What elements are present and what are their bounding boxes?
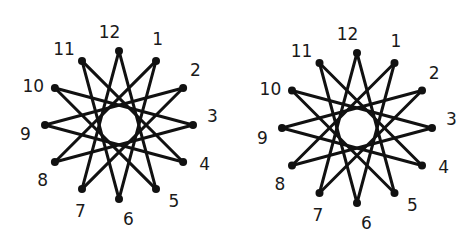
- vertex-label-9: 9: [257, 128, 268, 148]
- vertex-8: [288, 162, 296, 170]
- vertex-label-8: 8: [274, 174, 285, 194]
- vertex-label-7: 7: [313, 205, 324, 225]
- vertex-6: [115, 195, 123, 203]
- vertex-label-6: 6: [123, 209, 134, 229]
- vertex-label-10: 10: [260, 79, 282, 99]
- vertex-label-4: 4: [199, 154, 210, 174]
- vertex-7: [316, 189, 324, 197]
- vertex-label-9: 9: [20, 124, 31, 144]
- vertex-label-4: 4: [438, 157, 449, 177]
- vertex-11: [78, 57, 86, 65]
- vertex-11: [316, 59, 324, 67]
- vertex-2: [179, 84, 187, 92]
- vertex-label-3: 3: [207, 106, 218, 126]
- vertex-12: [115, 47, 123, 55]
- vertex-label-3: 3: [446, 109, 457, 129]
- vertex-label-1: 1: [152, 29, 163, 49]
- star-diagrams: 121234567891011 121234567891011: [0, 0, 465, 252]
- vertex-7: [78, 185, 86, 193]
- vertex-9: [278, 124, 286, 132]
- vertex-12: [353, 49, 361, 57]
- vertex-2: [418, 87, 426, 95]
- vertex-6: [353, 199, 361, 207]
- vertex-3: [428, 124, 436, 132]
- vertex-label-1: 1: [391, 31, 402, 51]
- vertex-label-8: 8: [37, 170, 48, 190]
- vertex-1: [152, 57, 160, 65]
- left-star-diagram: 121234567891011: [20, 22, 218, 229]
- vertex-8: [51, 158, 59, 166]
- vertex-5: [391, 189, 399, 197]
- vertex-label-5: 5: [168, 191, 179, 211]
- vertex-label-12: 12: [99, 22, 121, 42]
- vertex-label-10: 10: [22, 76, 44, 96]
- vertex-label-12: 12: [337, 24, 359, 44]
- vertex-4: [179, 158, 187, 166]
- vertex-label-7: 7: [75, 201, 86, 221]
- vertex-9: [41, 121, 49, 129]
- vertex-label-2: 2: [190, 60, 201, 80]
- vertex-label-2: 2: [429, 63, 440, 83]
- vertex-label-11: 11: [53, 39, 75, 59]
- vertex-10: [288, 87, 296, 95]
- vertex-4: [418, 162, 426, 170]
- vertex-label-11: 11: [291, 41, 313, 61]
- vertex-5: [152, 185, 160, 193]
- vertex-10: [51, 84, 59, 92]
- vertex-label-6: 6: [361, 213, 372, 233]
- vertex-1: [391, 59, 399, 67]
- right-star-diagram: 121234567891011: [257, 24, 457, 233]
- vertex-3: [189, 121, 197, 129]
- vertex-label-5: 5: [407, 195, 418, 215]
